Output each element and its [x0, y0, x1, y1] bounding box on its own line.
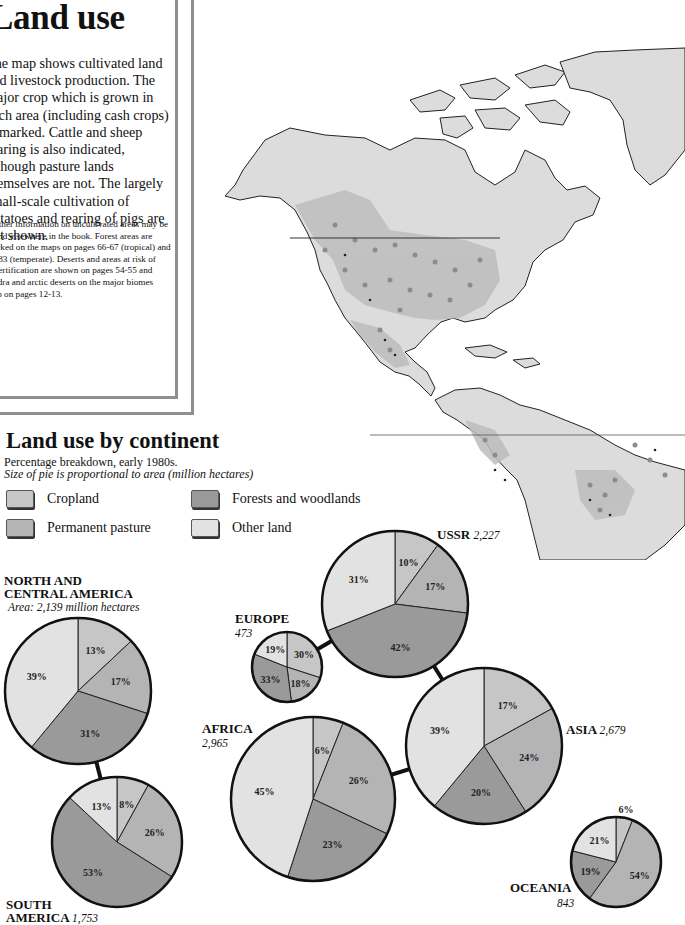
north-america-label: NORTH AND CENTRAL AMERICA [4, 574, 133, 600]
north-america-label-line2: CENTRAL AMERICA [4, 587, 133, 600]
ussr-label-text: USSR [437, 527, 470, 542]
pie-slice-label: 13% [85, 645, 105, 656]
pie-slice-label: 23% [323, 839, 343, 850]
europe-label: EUROPE [235, 612, 289, 625]
africa-area: 2,965 [202, 737, 228, 749]
south-america-label: SOUTH AMERICA 1,753 [6, 898, 98, 925]
pie-slice-label: 6% [315, 745, 330, 756]
ussr-label: USSR 2,227 [437, 528, 499, 542]
pie-slice-label: 6% [618, 804, 633, 815]
ussr-area: 2,227 [474, 529, 500, 541]
pie-slice-label: 26% [349, 775, 369, 786]
pie-south-america: 8%26%53%13% [52, 777, 182, 907]
south-america-label-line2: AMERICA [6, 910, 69, 925]
pie-north-america: 13%17%31%39% [5, 618, 151, 764]
pie-slice-label: 19% [581, 866, 601, 877]
pie-slice-label: 18% [290, 678, 310, 689]
africa-label: AFRICA [202, 722, 253, 735]
pie-slice-label: 17% [498, 700, 518, 711]
pie-africa: 6%26%23%45% [231, 717, 395, 881]
pie-slice-label: 17% [425, 581, 445, 592]
pie-slice-label: 13% [92, 801, 112, 812]
pie-slice-label: 10% [399, 557, 419, 568]
north-america-area: Area: 2,139 million hectares [8, 601, 139, 613]
pie-slice-label: 8% [119, 799, 134, 810]
pie-slice-label: 45% [254, 786, 274, 797]
pie-slice-label: 39% [27, 671, 47, 682]
pie-slice-label: 20% [471, 787, 491, 798]
pie-slice-label: 26% [145, 827, 165, 838]
pie-slice-label: 42% [390, 642, 410, 653]
pie-ussr: 10%17%42%31% [322, 531, 468, 677]
pie-slice-label: 39% [430, 725, 450, 736]
pie-oceania: 6%54%19%21% [571, 804, 661, 907]
pie-slice-label: 30% [294, 649, 314, 660]
pie-slice-label: 31% [80, 728, 100, 739]
asia-label-text: ASIA [566, 722, 596, 737]
pie-slice-label: 19% [265, 644, 285, 655]
pie-slice-label: 24% [519, 752, 539, 763]
pie-slice-label: 33% [260, 674, 280, 685]
europe-area: 473 [235, 627, 252, 639]
pie-slice-label: 21% [589, 835, 609, 846]
oceania-area: 843 [557, 897, 574, 909]
asia-area: 2,679 [600, 724, 626, 736]
pie-slice-label: 31% [349, 574, 369, 585]
pie-asia: 17%24%20%39% [406, 668, 562, 824]
pie-slice-label: 53% [83, 867, 103, 878]
pie-europe: 30%18%33%19% [252, 632, 322, 702]
asia-label: ASIA 2,679 [566, 723, 625, 737]
pie-slice-label: 17% [111, 676, 131, 687]
south-america-area: 1,753 [72, 912, 98, 924]
oceania-label: OCEANIA [510, 881, 571, 894]
pie-slice-label: 54% [630, 870, 650, 881]
